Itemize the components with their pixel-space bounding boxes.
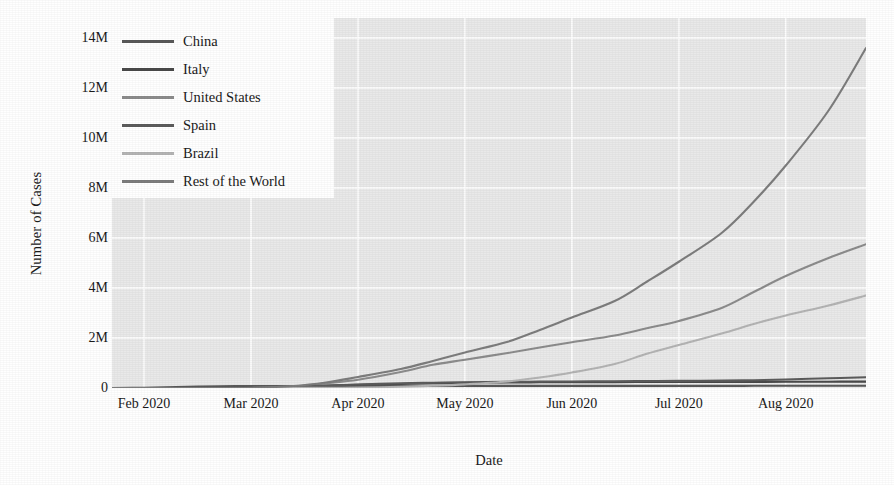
y-tick-6M: 6M xyxy=(62,231,108,245)
x-tick-aug-2020: Aug 2020 xyxy=(726,396,846,412)
y-tick-2M: 2M xyxy=(62,331,108,345)
y-tick-4M: 4M xyxy=(62,281,108,295)
legend-label: China xyxy=(183,33,218,50)
series-line-united-states xyxy=(112,244,866,388)
legend-item-italy[interactable]: Italy xyxy=(122,56,210,82)
legend-swatch-icon xyxy=(122,152,174,155)
legend-item-china[interactable]: China xyxy=(122,28,218,54)
x-tick-may-2020: May 2020 xyxy=(405,396,525,412)
chart-legend: ChinaItalyUnited StatesSpainBrazilRest o… xyxy=(112,16,334,198)
y-axis-title: Number of Cases xyxy=(28,124,45,324)
chart-figure: Number of Cases 14M12M10M8M6M4M2M0 Feb 2… xyxy=(0,0,894,485)
legend-label: Brazil xyxy=(183,145,218,162)
x-tick-apr-2020: Apr 2020 xyxy=(298,396,418,412)
legend-item-united-states[interactable]: United States xyxy=(122,84,261,110)
y-tick-14M: 14M xyxy=(62,31,108,45)
y-tick-0: 0 xyxy=(62,381,108,395)
x-tick-jul-2020: Jul 2020 xyxy=(619,396,739,412)
x-tick-jun-2020: Jun 2020 xyxy=(512,396,632,412)
legend-item-brazil[interactable]: Brazil xyxy=(122,140,218,166)
y-tick-12M: 12M xyxy=(62,81,108,95)
legend-item-rest-of-the-world[interactable]: Rest of the World xyxy=(122,168,285,194)
legend-swatch-icon xyxy=(122,124,174,127)
series-line-brazil xyxy=(112,296,866,389)
legend-swatch-icon xyxy=(122,40,174,43)
y-tick-10M: 10M xyxy=(62,131,108,145)
x-tick-feb-2020: Feb 2020 xyxy=(84,396,204,412)
y-tick-8M: 8M xyxy=(62,181,108,195)
legend-item-spain[interactable]: Spain xyxy=(122,112,216,138)
legend-label: Rest of the World xyxy=(183,173,285,190)
legend-swatch-icon xyxy=(122,180,174,183)
x-axis-title: Date xyxy=(112,452,866,469)
legend-swatch-icon xyxy=(122,68,174,71)
x-tick-mar-2020: Mar 2020 xyxy=(191,396,311,412)
legend-label: United States xyxy=(183,89,261,106)
legend-label: Italy xyxy=(183,61,210,78)
legend-swatch-icon xyxy=(122,96,174,99)
legend-label: Spain xyxy=(183,117,216,134)
